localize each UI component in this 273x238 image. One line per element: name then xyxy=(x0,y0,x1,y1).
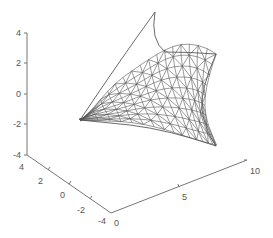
y-axis: 4 2 0 -2 -4 xyxy=(19,155,111,226)
x-tick-label: 10 xyxy=(250,166,260,176)
z-tick-label: 4 xyxy=(16,28,21,38)
y-tick-label: -4 xyxy=(98,216,106,226)
x-tick-label: 0 xyxy=(114,218,119,228)
y-tick-label: 0 xyxy=(60,190,65,200)
x-tick-label: 5 xyxy=(182,192,187,202)
y-tick-label: 4 xyxy=(19,162,24,172)
x-axis: 0 5 10 xyxy=(111,160,260,228)
surface-plot: 4 2 0 -2 -4 4 2 0 -2 -4 0 5 10 xyxy=(0,0,273,238)
z-tick-label: 0 xyxy=(16,89,21,99)
z-axis: 4 2 0 -2 -4 xyxy=(13,28,27,160)
z-tick-label: -2 xyxy=(13,119,21,129)
z-tick-label: -4 xyxy=(13,150,21,160)
z-tick-label: 2 xyxy=(16,58,21,68)
wireframe-mesh xyxy=(79,12,217,146)
y-tick-label: -2 xyxy=(77,205,85,215)
y-tick-label: 2 xyxy=(38,176,43,186)
